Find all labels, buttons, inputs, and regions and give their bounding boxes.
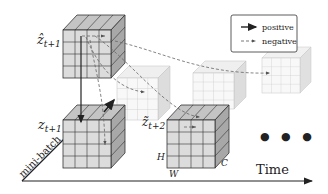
label-batch-axis: mini-batch (17, 133, 63, 179)
label-time-axis: Time (256, 162, 289, 177)
legend: positive negative (231, 15, 297, 52)
faded-cube-right (193, 61, 246, 109)
diagram-canvas: ẑt+1 zt+1 z̃t+2 H W C Time mini-batch ● … (0, 0, 328, 194)
label-H: H (156, 152, 165, 162)
cube-z-tilde-t2 (167, 105, 229, 168)
label-z: zt+1 (37, 117, 62, 134)
cube-z-hat-t1 (63, 15, 125, 78)
legend-positive-label: positive (262, 23, 294, 32)
label-C: C (221, 158, 228, 168)
label-z-hat: ẑt+1 (36, 32, 61, 49)
faded-cube-far-right (262, 47, 311, 93)
legend-negative-label: negative (262, 37, 297, 46)
label-W: W (169, 169, 179, 179)
legend-box (231, 15, 297, 52)
ellipsis-dots: ● ● ● (260, 130, 316, 143)
cube-z-t1 (63, 105, 125, 168)
